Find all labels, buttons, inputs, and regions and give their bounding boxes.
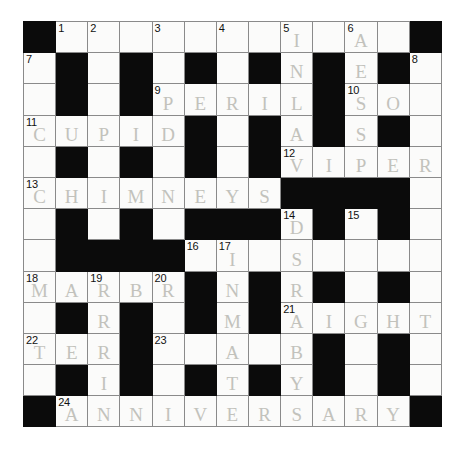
crossword-cell[interactable]: 14D: [281, 209, 313, 240]
crossword-cell[interactable]: 10S: [345, 84, 377, 115]
crossword-cell[interactable]: R: [88, 302, 120, 333]
crossword-cell[interactable]: R: [345, 396, 377, 427]
crossword-cell[interactable]: 23: [152, 333, 184, 364]
crossword-cell[interactable]: [345, 365, 377, 396]
crossword-cell[interactable]: N: [152, 177, 184, 208]
crossword-cell[interactable]: I: [152, 396, 184, 427]
crossword-cell[interactable]: [409, 209, 441, 240]
crossword-cell[interactable]: I: [248, 84, 280, 115]
crossword-cell[interactable]: 22T: [24, 333, 56, 364]
crossword-cell[interactable]: [88, 209, 120, 240]
crossword-cell[interactable]: 13C: [24, 177, 56, 208]
crossword-cell[interactable]: M: [120, 177, 152, 208]
crossword-cell[interactable]: [152, 53, 184, 84]
crossword-cell[interactable]: [152, 146, 184, 177]
crossword-grid[interactable]: 12345I6A7NE89PERIL10SO11CUPIDAS12VIPER13…: [23, 21, 442, 427]
crossword-cell[interactable]: U: [56, 115, 88, 146]
crossword-cell[interactable]: N: [281, 53, 313, 84]
crossword-cell[interactable]: [248, 333, 280, 364]
crossword-cell[interactable]: 7: [24, 53, 56, 84]
crossword-cell[interactable]: E: [184, 177, 216, 208]
crossword-cell[interactable]: 21A: [281, 302, 313, 333]
crossword-cell[interactable]: 3: [152, 22, 184, 53]
crossword-cell[interactable]: T: [216, 365, 248, 396]
crossword-cell[interactable]: I: [313, 146, 345, 177]
crossword-cell[interactable]: R: [281, 271, 313, 302]
crossword-cell[interactable]: V: [184, 396, 216, 427]
crossword-cell[interactable]: [216, 115, 248, 146]
crossword-cell[interactable]: 6A: [345, 22, 377, 53]
crossword-cell[interactable]: E: [345, 53, 377, 84]
crossword-cell[interactable]: Y: [216, 177, 248, 208]
crossword-cell[interactable]: 8: [409, 53, 441, 84]
crossword-cell[interactable]: G: [345, 302, 377, 333]
crossword-cell[interactable]: R: [88, 333, 120, 364]
crossword-cell[interactable]: I: [313, 302, 345, 333]
crossword-cell[interactable]: [409, 271, 441, 302]
crossword-cell[interactable]: S: [281, 396, 313, 427]
crossword-cell[interactable]: 9P: [152, 84, 184, 115]
crossword-cell[interactable]: [152, 209, 184, 240]
crossword-cell[interactable]: T: [409, 302, 441, 333]
crossword-cell[interactable]: [345, 271, 377, 302]
crossword-cell[interactable]: [409, 333, 441, 364]
crossword-cell[interactable]: [409, 177, 441, 208]
crossword-cell[interactable]: I: [120, 115, 152, 146]
crossword-cell[interactable]: [377, 22, 409, 53]
crossword-cell[interactable]: Y: [281, 365, 313, 396]
crossword-cell[interactable]: R: [216, 84, 248, 115]
crossword-cell[interactable]: I: [88, 177, 120, 208]
crossword-cell[interactable]: [24, 84, 56, 115]
crossword-cell[interactable]: [345, 240, 377, 271]
crossword-cell[interactable]: I: [88, 365, 120, 396]
crossword-cell[interactable]: [313, 22, 345, 53]
crossword-cell[interactable]: O: [377, 84, 409, 115]
crossword-cell[interactable]: 18M: [24, 271, 56, 302]
crossword-cell[interactable]: [409, 365, 441, 396]
crossword-cell[interactable]: A: [216, 333, 248, 364]
crossword-cell[interactable]: [248, 22, 280, 53]
crossword-cell[interactable]: R: [409, 146, 441, 177]
crossword-cell[interactable]: S: [345, 115, 377, 146]
crossword-cell[interactable]: [24, 240, 56, 271]
crossword-cell[interactable]: [88, 53, 120, 84]
crossword-cell[interactable]: N: [88, 396, 120, 427]
crossword-cell[interactable]: 11C: [24, 115, 56, 146]
crossword-cell[interactable]: E: [216, 396, 248, 427]
crossword-cell[interactable]: 5I: [281, 22, 313, 53]
crossword-cell[interactable]: [152, 365, 184, 396]
crossword-cell[interactable]: [248, 240, 280, 271]
crossword-cell[interactable]: B: [120, 271, 152, 302]
crossword-cell[interactable]: A: [56, 271, 88, 302]
crossword-cell[interactable]: [88, 146, 120, 177]
crossword-cell[interactable]: 16: [184, 240, 216, 271]
crossword-cell[interactable]: E: [184, 84, 216, 115]
crossword-cell[interactable]: [120, 22, 152, 53]
crossword-cell[interactable]: P: [88, 115, 120, 146]
crossword-cell[interactable]: Y: [377, 396, 409, 427]
crossword-cell[interactable]: [24, 302, 56, 333]
crossword-cell[interactable]: 17I: [216, 240, 248, 271]
crossword-cell[interactable]: 19R: [88, 271, 120, 302]
crossword-cell[interactable]: S: [281, 240, 313, 271]
crossword-cell[interactable]: [184, 333, 216, 364]
crossword-cell[interactable]: [345, 333, 377, 364]
crossword-cell[interactable]: [24, 146, 56, 177]
crossword-cell[interactable]: [409, 240, 441, 271]
crossword-cell[interactable]: [24, 209, 56, 240]
crossword-cell[interactable]: [88, 84, 120, 115]
crossword-cell[interactable]: S: [248, 177, 280, 208]
crossword-cell[interactable]: 2: [88, 22, 120, 53]
crossword-cell[interactable]: R: [248, 396, 280, 427]
crossword-cell[interactable]: N: [216, 271, 248, 302]
crossword-cell[interactable]: H: [377, 302, 409, 333]
crossword-cell[interactable]: 4: [216, 22, 248, 53]
crossword-cell[interactable]: 12V: [281, 146, 313, 177]
crossword-cell[interactable]: [184, 22, 216, 53]
crossword-cell[interactable]: [313, 240, 345, 271]
crossword-cell[interactable]: [409, 84, 441, 115]
crossword-cell[interactable]: H: [56, 177, 88, 208]
crossword-cell[interactable]: L: [281, 84, 313, 115]
crossword-cell[interactable]: 24A: [56, 396, 88, 427]
crossword-cell[interactable]: M: [216, 302, 248, 333]
